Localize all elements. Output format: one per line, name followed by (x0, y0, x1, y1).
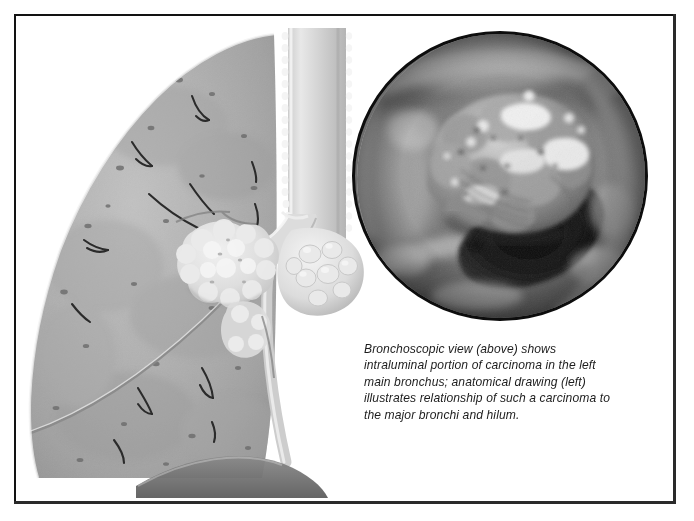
bronchoscopic-view (352, 31, 648, 321)
caption-line-3: main bronchus; anatomical drawing (left) (364, 374, 650, 390)
hilar-lymph-nodes (277, 228, 364, 316)
figure-page: Bronchoscopic view (above) shows intralu… (0, 0, 694, 521)
caption-line-1: Bronchoscopic view (above) shows (364, 341, 650, 357)
caption-line-5: the major bronchi and hilum. (364, 407, 650, 423)
bronchoscope-disc (352, 31, 648, 321)
figure-caption: Bronchoscopic view (above) shows intralu… (364, 341, 650, 423)
caption-line-4: illustrates relationship of such a carci… (364, 390, 650, 406)
anatomical-drawing (16, 16, 366, 502)
caption-line-2: intraluminal portion of carcinoma in the… (364, 357, 650, 373)
